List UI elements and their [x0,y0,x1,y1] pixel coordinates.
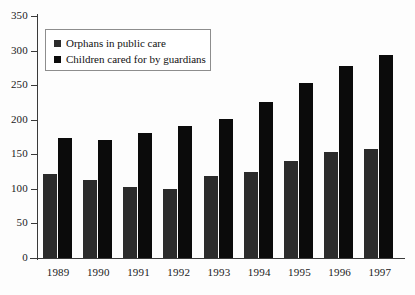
x-axis-tick-label-1995: 1995 [279,266,319,278]
y-axis-tick [31,120,38,121]
y-axis-tick-label: 100 [0,183,28,194]
y-axis-tick-label: 200 [0,114,28,125]
x-axis-tick-label-1997: 1997 [360,266,400,278]
bar-orphans-1991 [123,187,137,258]
bar-orphans-1990 [83,180,97,258]
legend-label-guardians: Children cared for by guardians [66,53,206,65]
y-axis-tick-label: 50 [0,217,28,228]
legend-label-orphans: Orphans in public care [66,37,166,49]
bar-orphans-1996 [324,152,338,258]
bar-guardians-1992 [178,126,192,258]
bar-guardians-1991 [138,133,152,258]
bar-orphans-1997 [364,149,378,258]
legend-swatch-guardians-icon [54,56,61,63]
legend-item-guardians: Children cared for by guardians [54,51,204,67]
y-axis-tick [31,258,38,259]
bar-orphans-1995 [284,161,298,258]
x-axis-tick-label-1990: 1990 [78,266,118,278]
bar-orphans-1994 [244,172,258,258]
bar-orphans-1989 [43,174,57,258]
y-axis-tick-label: 150 [0,148,28,159]
y-axis-tick [31,51,38,52]
y-axis-tick-label: 0 [0,252,28,263]
x-axis-line [30,258,405,259]
y-axis-tick [31,154,38,155]
bar-orphans-1992 [163,189,177,258]
legend-item-orphans: Orphans in public care [54,35,204,51]
y-axis-tick-label: 300 [0,45,28,56]
bar-guardians-1989 [58,138,72,258]
bar-guardians-1996 [339,66,353,258]
x-axis-tick-label-1994: 1994 [239,266,279,278]
legend-swatch-orphans-icon [54,40,61,47]
x-axis-tick-label-1996: 1996 [320,266,360,278]
y-axis-tick [31,223,38,224]
x-axis-tick-label-1991: 1991 [119,266,159,278]
x-axis-tick-label-1993: 1993 [199,266,239,278]
x-axis-tick-label-1989: 1989 [38,266,78,278]
y-axis-tick-label: 250 [0,79,28,90]
chart-legend: Orphans in public care Children cared fo… [45,29,211,71]
y-axis-tick [31,16,38,17]
bar-guardians-1994 [259,102,273,258]
bar-chart: 050100150200250300350 198919901991199219… [0,0,415,295]
bar-guardians-1990 [98,140,112,258]
bar-guardians-1995 [299,83,313,258]
y-axis-tick [31,85,38,86]
y-axis-tick [31,189,38,190]
bar-guardians-1993 [219,119,233,258]
bar-guardians-1997 [379,55,393,258]
y-axis-tick-label: 350 [0,10,28,21]
x-axis-tick-label-1992: 1992 [159,266,199,278]
bar-orphans-1993 [204,176,218,258]
